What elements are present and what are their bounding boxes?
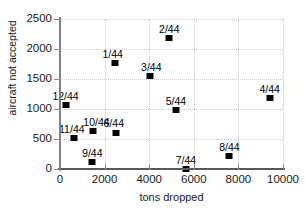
x-axis-title: tons dropped <box>58 191 285 203</box>
y-axis-tick <box>54 109 61 110</box>
y-axis-tick <box>54 19 61 20</box>
x-axis-tick-label: 10000 <box>253 173 305 185</box>
gridline-vertical <box>105 19 106 169</box>
data-point-label: 12/44 <box>52 91 78 102</box>
data-point-marker[interactable] <box>147 73 154 79</box>
data-point-label: 9/44 <box>82 148 102 159</box>
y-axis-tick <box>54 139 61 140</box>
data-point-label: 5/44 <box>166 96 186 107</box>
x-axis-tick <box>283 164 284 170</box>
x-axis-tick <box>238 164 239 170</box>
data-point-marker[interactable] <box>226 153 233 159</box>
data-point-label: 1/44 <box>102 49 122 60</box>
y-axis-tick-label: 500 <box>10 133 52 144</box>
plot-area: 12/4411/449/4410/446/441/443/442/445/447… <box>60 19 283 169</box>
data-point-marker[interactable] <box>112 130 119 136</box>
x-axis-tick <box>149 164 150 170</box>
gridline-horizontal <box>60 79 283 80</box>
data-point-label: 11/44 <box>59 124 85 135</box>
scatter-chart: 12/4411/449/4410/446/441/443/442/445/447… <box>0 0 305 212</box>
gridline-horizontal <box>60 139 283 140</box>
gridline-vertical <box>149 19 150 169</box>
data-point-marker[interactable] <box>111 60 118 66</box>
y-axis-title: aircraft not accepted <box>6 3 18 133</box>
data-point-marker[interactable] <box>166 35 173 41</box>
data-point-marker[interactable] <box>89 159 96 165</box>
gridline-vertical <box>283 19 284 169</box>
x-axis-tick <box>105 164 106 170</box>
y-axis-line <box>59 17 61 171</box>
data-point-marker[interactable] <box>266 95 273 101</box>
x-axis-tick <box>194 164 195 170</box>
data-point-label: 2/44 <box>159 24 179 35</box>
gridline-horizontal <box>60 49 283 50</box>
x-axis-tick <box>60 164 61 170</box>
data-point-marker[interactable] <box>62 102 69 108</box>
data-point-label: 4/44 <box>259 84 279 95</box>
data-point-marker[interactable] <box>70 135 77 141</box>
data-point-label: 3/44 <box>141 62 161 73</box>
y-axis-tick <box>54 49 61 50</box>
data-point-label: 8/44 <box>219 142 239 153</box>
gridline-horizontal <box>60 19 283 20</box>
y-axis-tick <box>54 79 61 80</box>
data-point-label: 6/44 <box>104 118 124 129</box>
data-point-marker[interactable] <box>90 128 97 134</box>
x-axis-line <box>58 168 285 170</box>
gridline-vertical <box>194 19 195 169</box>
data-point-marker[interactable] <box>172 107 179 113</box>
